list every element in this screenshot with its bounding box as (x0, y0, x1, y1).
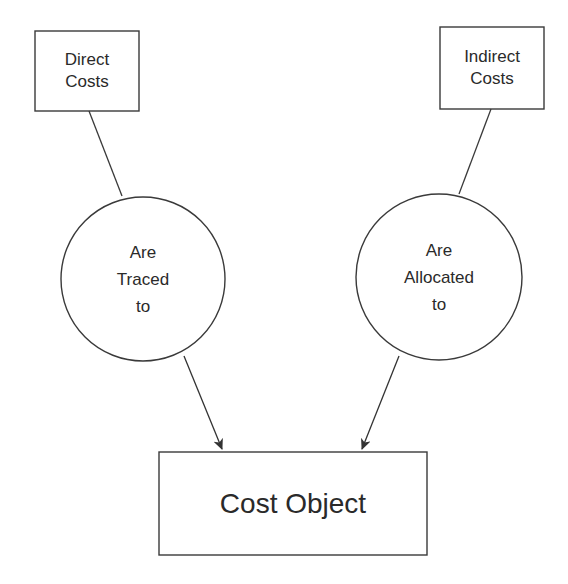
direct-to-traced-connector (89, 111, 122, 196)
allocated-line-3: to (432, 291, 446, 318)
traced-label: Are Traced to (61, 197, 225, 361)
direct-costs-label: Direct Costs (35, 31, 139, 111)
allocated-line-2: Allocated (404, 264, 474, 291)
allocated-line-1: Are (426, 237, 452, 264)
traced-line-2: Traced (117, 266, 169, 293)
allocated-label: Are Allocated to (356, 194, 522, 360)
indirect-costs-line-2: Costs (470, 68, 513, 90)
direct-costs-line-1: Direct (65, 49, 109, 71)
direct-costs-line-2: Costs (65, 71, 108, 93)
cost-object-label: Cost Object (159, 452, 427, 555)
traced-to-cost-object-arrow (184, 356, 222, 449)
indirect-costs-line-1: Indirect (464, 46, 520, 68)
traced-line-3: to (136, 293, 150, 320)
traced-line-1: Are (130, 239, 156, 266)
indirect-to-allocated-connector (459, 109, 491, 194)
indirect-costs-label: Indirect Costs (440, 27, 544, 109)
allocated-to-cost-object-arrow (362, 356, 399, 449)
cost-object-text: Cost Object (220, 488, 366, 520)
